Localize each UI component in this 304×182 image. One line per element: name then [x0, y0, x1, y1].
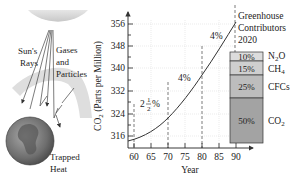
x-tick-label: 85 — [214, 152, 224, 162]
x-tick-label: 70 — [163, 152, 173, 162]
rate-label-2-5pct: 2 1 2 % — [140, 96, 160, 113]
suns-rays-label-line1: Sun's — [18, 46, 38, 56]
rate-label-80s: 4% — [210, 31, 223, 41]
bar-title-line3: 2020 — [238, 35, 257, 45]
bar-pct-n2o: 10% — [238, 52, 255, 62]
y-tick-label: 340 — [111, 63, 126, 73]
suns-rays-label-line2: Rays — [20, 58, 38, 68]
y-tick-label: 332 — [111, 86, 126, 96]
y-tick-label: 356 — [111, 19, 126, 29]
y-ticks — [128, 24, 133, 136]
bar-title-line1: Greenhouse — [238, 11, 283, 21]
y-tick-labels: 356 348 340 332 324 316 — [111, 19, 126, 141]
x-tick-label: 90 — [231, 152, 241, 162]
x-tick-label: 65 — [146, 152, 156, 162]
gas-label-co2: CO2 — [268, 116, 285, 128]
bar-pct-co2: 50% — [238, 116, 255, 126]
greenhouse-illustration: Sun's Rays Gases and Particles Trapped H… — [6, 10, 92, 174]
y-tick-label: 324 — [111, 109, 126, 119]
gases-label-line3: Particles — [56, 69, 87, 79]
gases-label-line2: and — [56, 57, 69, 67]
gases-pointer — [62, 88, 74, 103]
trapped-heat-label-line2: Heat — [50, 164, 67, 174]
bar-pct-ch4: 15% — [238, 64, 255, 74]
y-tick-label: 348 — [111, 41, 126, 51]
svg-text:1: 1 — [147, 96, 151, 104]
co2-chart: 356 348 340 332 324 316 60 65 70 75 80 8… — [93, 5, 253, 175]
gas-label-ch4: CH4 — [268, 64, 285, 76]
x-tick-labels: 60 65 70 75 80 85 90 — [129, 152, 241, 162]
x-ticks — [134, 143, 236, 148]
bar-pct-cfcs: 25% — [238, 82, 255, 92]
svg-text:2: 2 — [147, 105, 151, 113]
bar-title-line2: Contributors — [238, 23, 286, 33]
trapped-heat-label-line1: Trapped — [50, 152, 80, 162]
x-tick-label: 60 — [129, 152, 139, 162]
greenhouse-contributors-bar: Greenhouse Contributors 2020 10% 15% 25%… — [230, 11, 290, 143]
x-axis-label: Year — [181, 165, 199, 175]
y-axis-label: CO2 (Parts per Million) — [93, 41, 105, 131]
gas-label-n2o: N2O — [268, 51, 285, 63]
gas-label-cfcs: CFCs — [268, 82, 290, 92]
rate-label-70s: 4% — [178, 73, 191, 83]
x-tick-label: 80 — [197, 152, 207, 162]
svg-text:2: 2 — [140, 99, 145, 109]
sun-shape — [28, 10, 88, 22]
y-tick-label: 316 — [111, 131, 126, 141]
figure: Sun's Rays Gases and Particles Trapped H… — [0, 0, 304, 182]
gases-label-line1: Gases — [56, 45, 78, 55]
x-tick-label: 75 — [180, 152, 190, 162]
svg-text:%: % — [152, 99, 160, 109]
